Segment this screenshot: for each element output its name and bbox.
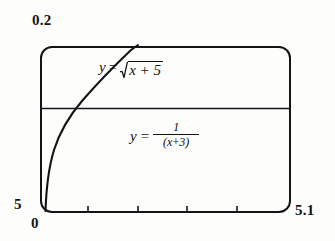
equation-sqrt-radicand: x + 5 [128,61,163,78]
equation-sqrt-lhs: y [99,60,106,75]
equation-reciprocal-lhs: y [130,129,137,144]
x-axis-max-label: 5.1 [295,203,314,218]
equation-sqrt-equals: = [109,60,117,75]
equation-label-reciprocal: y = 1 (x+3) [130,122,199,150]
radical-group: x + 5 [120,60,163,77]
equation-label-sqrt: y = x + 5 [99,60,163,77]
graph-figure: 0.2 5 0 5.1 y = x + 5 y = 1 (x+3) [0,0,335,241]
x-axis-min-label: 0 [31,216,39,231]
y-axis-min-label: 5 [14,197,22,212]
equation-reciprocal-equals: = [141,129,149,144]
y-axis-max-label: 0.2 [32,13,51,28]
radical-sign-icon [120,61,128,78]
fraction-numerator: 1 [170,121,182,134]
fraction: 1 (x+3) [153,121,199,149]
denominator-close-paren: ) [185,135,189,149]
fraction-denominator: (x+3) [161,135,191,150]
